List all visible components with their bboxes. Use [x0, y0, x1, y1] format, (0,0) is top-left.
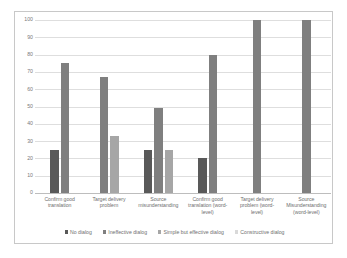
bar-ineffective-dialog[interactable]	[253, 20, 262, 193]
bar-ineffective-dialog[interactable]	[154, 108, 163, 193]
bar-group	[144, 20, 174, 193]
bars-layer	[35, 20, 331, 193]
legend-swatch-icon	[158, 230, 161, 233]
bar-no-dialog[interactable]	[144, 150, 153, 193]
x-axis-label-line: (word-level)	[282, 209, 331, 215]
x-axis-label-line: translation (word-	[183, 202, 232, 208]
x-axis-label-line: problem	[84, 202, 133, 208]
x-axis-category-label: Sourcemisunderstanding	[134, 196, 183, 209]
bar-ineffective-dialog[interactable]	[302, 20, 311, 193]
bar-simple-but-effective-dialog[interactable]	[110, 136, 119, 193]
bar-ineffective-dialog[interactable]	[100, 77, 109, 193]
x-axis-category-label: Target deliveryproblem	[84, 196, 133, 209]
bar-group	[253, 20, 262, 193]
y-axis-tick-label: 90	[27, 35, 33, 40]
x-axis-category-label: SourceMisunderstanding(word-level)	[282, 196, 331, 215]
y-axis-tick-label: 10	[27, 173, 33, 178]
bar-group	[100, 20, 119, 193]
chart-legend: No dialogIneffective dialogSimple but ef…	[15, 225, 334, 239]
x-axis-category-label: Target deliveryproblem (word-level)	[232, 196, 281, 215]
bar-group	[50, 20, 69, 193]
legend-label: Ineffective dialog	[108, 229, 147, 235]
plot-area	[35, 20, 331, 193]
legend-swatch-icon	[103, 230, 106, 233]
bar-group	[198, 20, 217, 193]
x-axis-label-line: level)	[232, 209, 281, 215]
y-axis-tick-label: 30	[27, 139, 33, 144]
x-axis-label-line: misunderstanding	[134, 202, 183, 208]
y-axis-tick-label: 100	[24, 17, 33, 22]
legend-label: Simple but effective dialog	[163, 229, 223, 235]
legend-swatch-icon	[65, 230, 68, 233]
x-axis-label-line: Misunderstanding	[282, 202, 331, 208]
y-axis-tick-label: 70	[27, 69, 33, 74]
bar-no-dialog[interactable]	[198, 158, 207, 193]
y-axis-tick-label: 80	[27, 52, 33, 57]
legend-label: Constructive dialog	[240, 229, 284, 235]
legend-swatch-icon	[235, 230, 238, 233]
bar-group	[302, 20, 311, 193]
y-axis: 0102030405060708090100	[15, 12, 35, 204]
x-axis-category-label: Confirm goodtranslation (word-level)	[183, 196, 232, 215]
y-axis-tick-label: 0	[30, 190, 33, 195]
bar-no-dialog[interactable]	[50, 150, 59, 193]
x-axis-label-line: translation	[35, 202, 84, 208]
y-axis-tick-label: 20	[27, 156, 33, 161]
chart-frame: 0102030405060708090100 Confirm goodtrans…	[14, 11, 333, 244]
chart-plot-wrapper: 0102030405060708090100 Confirm goodtrans…	[15, 12, 334, 245]
legend-item[interactable]: Constructive dialog	[235, 229, 285, 235]
legend-item[interactable]: Simple but effective dialog	[158, 229, 224, 235]
legend-item[interactable]: No dialog	[65, 229, 92, 235]
x-axis-category-label: Confirm goodtranslation	[35, 196, 84, 209]
x-axis-label-line: level)	[183, 209, 232, 215]
legend-label: No dialog	[70, 229, 92, 235]
bar-simple-but-effective-dialog[interactable]	[165, 150, 174, 193]
axis-baseline	[35, 193, 331, 194]
y-axis-tick-label: 60	[27, 87, 33, 92]
y-axis-tick-label: 50	[27, 104, 33, 109]
legend-item[interactable]: Ineffective dialog	[103, 229, 147, 235]
bar-ineffective-dialog[interactable]	[61, 63, 70, 193]
bar-ineffective-dialog[interactable]	[209, 55, 218, 193]
y-axis-tick-label: 40	[27, 121, 33, 126]
